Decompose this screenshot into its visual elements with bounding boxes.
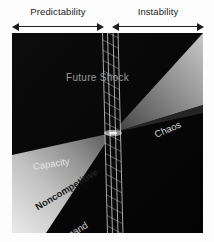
predictability-arrow [12, 22, 104, 31]
arrow-shaft [117, 26, 199, 27]
arrow-shaft [17, 26, 99, 27]
arrow-right-head-icon [97, 23, 104, 31]
diagram-graphics [12, 33, 203, 233]
diagram-panel: Future Shock Chaos Capacity Noncompetiti… [12, 33, 203, 233]
arrow-right-head-icon [197, 23, 204, 31]
diagram-figure: Predictability Instability [0, 0, 214, 242]
axis-header: Predictability Instability [0, 0, 214, 33]
axis-label-predictability: Predictability [12, 6, 104, 17]
axis-label-instability: Instability [112, 6, 204, 17]
instability-arrow [112, 22, 204, 31]
